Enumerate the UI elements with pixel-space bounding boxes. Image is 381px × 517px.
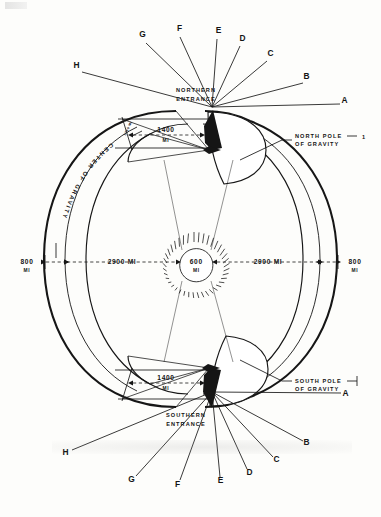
ray-line-south-F <box>180 392 212 480</box>
northern-entrance-label-1: NORTHERN <box>176 87 216 93</box>
sun-shaft-north-left <box>164 160 182 250</box>
south-ray-labels: A B C D E F G H <box>63 388 350 489</box>
ray-label-north-A: A <box>342 95 349 105</box>
central-sun: 600 MI <box>163 232 230 298</box>
north-pole-label-2: OF GRAVITY <box>295 141 339 147</box>
dim-left-800-value: 800 <box>20 258 33 265</box>
ray-label-south-D: D <box>247 467 254 477</box>
dim-right-2900-value: 2900 MI <box>254 258 283 265</box>
south-pole-label-2: OF GRAVITY <box>295 386 339 392</box>
southern-entrance-label-1: SOUTHERN <box>166 412 206 418</box>
diagram-canvas: 600 MI 800 MI 2900 MI 2900 MI 800 <box>0 0 381 517</box>
center-of-gravity-label: CENTER OF GRAVITY <box>61 142 114 220</box>
paper-smudge <box>52 440 352 454</box>
ray-label-south-E: E <box>218 475 224 485</box>
ray-line-north-A <box>212 104 340 107</box>
ray-label-south-G: G <box>128 474 135 484</box>
ray-label-north-B: B <box>304 71 311 81</box>
ray-label-south-C: C <box>274 454 281 464</box>
north-opening-left-lip <box>124 111 176 121</box>
ray-label-north-D: D <box>240 33 247 43</box>
ray-label-north-G: G <box>139 29 146 39</box>
south-ray-lines <box>72 392 341 480</box>
sun-diameter-unit: MI <box>193 268 200 273</box>
dim-right-800-value: 800 <box>348 258 361 265</box>
sun-shaft-south-left <box>164 281 182 362</box>
ray-label-north-F: F <box>177 23 183 33</box>
ray-line-south-B <box>212 392 303 441</box>
north-pole-label-1: NORTH POLE <box>295 133 342 139</box>
ray-label-south-F: F <box>175 479 181 489</box>
dim-right-800-unit: MI <box>352 268 359 273</box>
dim-left-2900-value: 2900 MI <box>108 258 137 265</box>
ray-line-north-B <box>212 83 303 107</box>
south-opening-left-lip <box>124 397 176 407</box>
north-pole-index: 1 <box>362 134 366 140</box>
south-entrance-width-unit: MI <box>163 386 170 391</box>
dim-left-800-unit: MI <box>24 268 31 273</box>
north-entrance-width-value: 1400 <box>157 126 174 133</box>
ray-label-north-H: H <box>74 60 81 70</box>
ray-label-north-E: E <box>216 25 222 35</box>
page-corner-mark <box>5 2 27 9</box>
ray-label-north-C: C <box>268 48 275 58</box>
south-pole-label-1: SOUTH POLE <box>295 378 342 384</box>
ray-label-south-A: A <box>343 388 350 398</box>
sun-diameter-value: 600 <box>190 258 203 265</box>
